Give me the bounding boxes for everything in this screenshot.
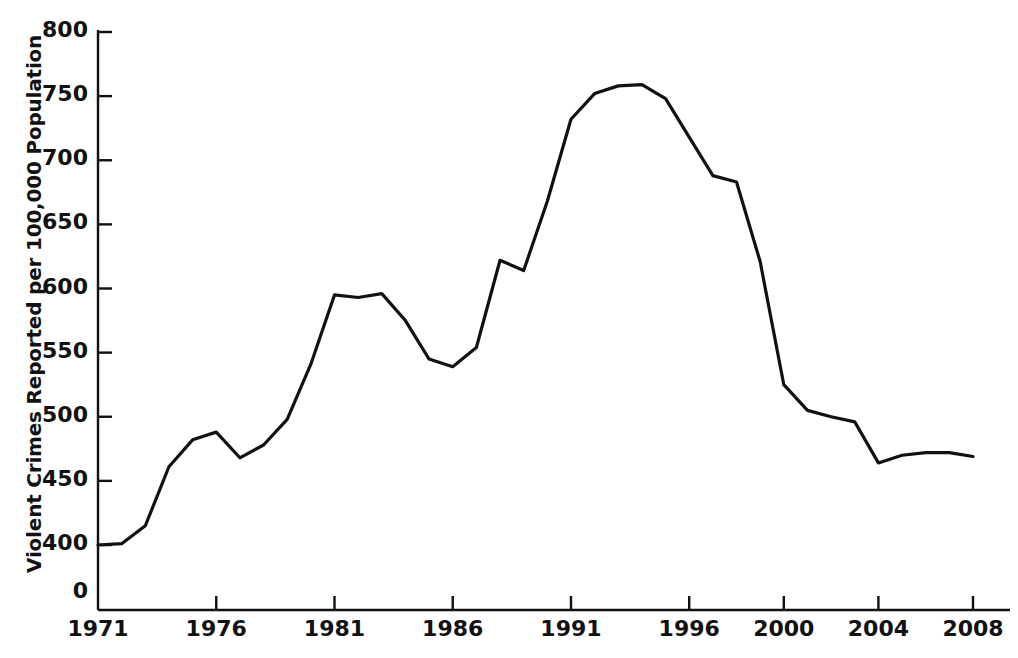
y-tick-label: 450 [6,466,88,491]
x-tick-label: 2000 [739,616,829,641]
x-tick-label: 1981 [289,616,379,641]
y-tick-label: 700 [6,145,88,170]
y-tick-label: 500 [6,402,88,427]
y-tick-label: 800 [6,17,88,42]
line-chart: Violent Crimes Reported per 100,000 Popu… [0,0,1018,658]
axis-lines [98,30,1010,610]
data-series [98,85,973,545]
x-tick-label: 2004 [833,616,923,641]
x-tick-label: 1996 [644,616,734,641]
y-tick-label: 550 [6,338,88,363]
y-tick-label: 600 [6,274,88,299]
x-tick-label: 1976 [171,616,261,641]
x-tick-label: 1991 [526,616,616,641]
y-tick-label-zero: 0 [6,578,88,603]
y-tick-label: 650 [6,209,88,234]
y-tick-label: 750 [6,81,88,106]
x-tick-label: 2008 [928,616,1018,641]
x-tick-label: 1971 [53,616,143,641]
y-tick-label: 400 [6,530,88,555]
plot-area [0,0,1018,658]
x-tick-label: 1986 [408,616,498,641]
axis-ticks [98,32,973,610]
